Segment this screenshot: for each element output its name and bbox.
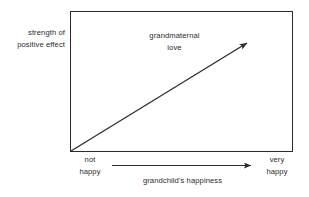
x-axis-tick-min-line2: happy [79, 167, 100, 176]
x-axis-label: grandchild's happiness [112, 175, 253, 187]
x-axis-tick-max-line1: very [270, 155, 285, 164]
series-annotation-line1: grandmaternal [149, 31, 199, 40]
figure-grandmaternal-love: strength ofpositive effect grandmaternal… [0, 0, 309, 197]
x-axis-tick-label-min: nothappy [70, 154, 110, 177]
x-axis-tick-min-line1: not [85, 155, 96, 164]
x-axis-tick-label-max: veryhappy [257, 154, 297, 177]
series-annotation-grandmaternal-love: grandmaternallove [20, 30, 309, 53]
series-annotation-line2: love [167, 43, 181, 52]
x-axis-tick-max-line2: happy [266, 167, 287, 176]
